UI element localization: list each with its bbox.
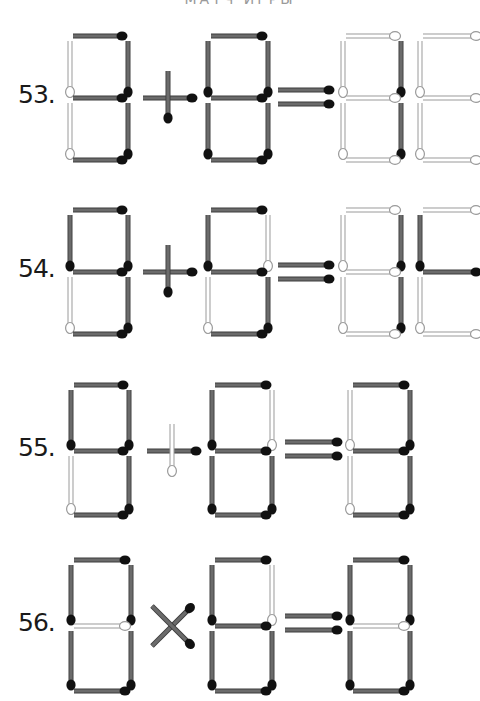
segment-a-top[interactable] xyxy=(73,31,128,40)
segment-c-bottom-right[interactable] xyxy=(123,277,132,334)
segment-a-top[interactable] xyxy=(73,205,128,214)
segment-a-top[interactable] xyxy=(211,31,268,40)
segment-b-top-right[interactable] xyxy=(405,390,414,451)
segment-e-bottom-left[interactable] xyxy=(416,277,425,334)
segment-b-top-right[interactable] xyxy=(263,41,272,98)
segment-c-bottom-right[interactable] xyxy=(263,103,272,160)
segment-d-bottom[interactable] xyxy=(211,155,268,164)
segment-f-top-left[interactable] xyxy=(66,565,75,626)
segment-d-bottom[interactable] xyxy=(215,686,272,695)
segment-e-bottom-left[interactable] xyxy=(416,103,425,160)
segment-c-bottom-right[interactable] xyxy=(396,277,405,334)
segment-g-middle[interactable] xyxy=(423,267,480,276)
segment-f-top-left[interactable] xyxy=(339,41,348,98)
segment-g-middle[interactable] xyxy=(211,267,268,276)
segment-a-top[interactable] xyxy=(211,205,268,214)
segment-b-top-right[interactable] xyxy=(396,215,405,272)
segment-b-top-right[interactable] xyxy=(264,215,273,272)
segment-e-bottom-left[interactable] xyxy=(339,277,348,334)
segment-a-top[interactable] xyxy=(423,206,480,215)
segment-d-bottom[interactable] xyxy=(73,155,128,164)
segment-g-middle[interactable] xyxy=(215,621,272,630)
segment-g-middle[interactable] xyxy=(74,446,129,455)
segment-e-bottom-left[interactable] xyxy=(207,631,216,691)
segment-e-bottom-left[interactable] xyxy=(203,103,212,160)
segment-c-bottom-right[interactable] xyxy=(396,103,405,160)
segment-e-bottom-left[interactable] xyxy=(345,631,354,691)
segment-d-bottom[interactable] xyxy=(353,510,410,519)
segment-d-bottom[interactable] xyxy=(423,156,480,165)
segment-g-middle[interactable] xyxy=(211,93,268,102)
segment-f-top-left[interactable] xyxy=(203,41,212,98)
segment-c-bottom-right[interactable] xyxy=(267,631,276,691)
segment-e-bottom-left[interactable] xyxy=(346,456,355,515)
segment-b-top-right[interactable] xyxy=(396,41,405,98)
segment-a-top[interactable] xyxy=(346,32,401,41)
segment-c-bottom-right[interactable] xyxy=(405,456,414,515)
segment-a-top[interactable] xyxy=(74,555,131,564)
segment-g-middle[interactable] xyxy=(346,94,401,103)
segment-g-middle[interactable] xyxy=(215,446,272,455)
segment-d-bottom[interactable] xyxy=(353,686,410,695)
equals-top-match[interactable] xyxy=(278,85,335,94)
segment-g-middle[interactable] xyxy=(73,267,128,276)
segment-a-top[interactable] xyxy=(215,380,272,389)
segment-a-top[interactable] xyxy=(423,32,480,41)
segment-f-top-left[interactable] xyxy=(66,41,75,98)
segment-e-bottom-left[interactable] xyxy=(66,631,75,691)
segment-b-top-right[interactable] xyxy=(268,565,277,626)
segment-f-top-left[interactable] xyxy=(415,215,424,272)
segment-a-top[interactable] xyxy=(346,206,401,215)
equals-top-match[interactable] xyxy=(285,611,343,620)
segment-a-top[interactable] xyxy=(353,555,410,564)
segment-b-top-right[interactable] xyxy=(405,565,414,626)
segment-f-top-left[interactable] xyxy=(65,215,74,272)
segment-b-top-right[interactable] xyxy=(124,390,133,451)
equals-top-match[interactable] xyxy=(278,260,335,269)
segment-f-top-left[interactable] xyxy=(346,390,355,451)
segment-g-middle[interactable] xyxy=(74,622,131,631)
segment-c-bottom-right[interactable] xyxy=(405,631,414,691)
segment-d-bottom[interactable] xyxy=(346,156,401,165)
segment-b-top-right[interactable] xyxy=(268,390,277,451)
segment-f-top-left[interactable] xyxy=(66,390,75,451)
segment-a-top[interactable] xyxy=(353,380,410,389)
segment-b-top-right[interactable] xyxy=(126,565,135,626)
segment-f-top-left[interactable] xyxy=(207,390,216,451)
equals-bottom-match[interactable] xyxy=(278,274,335,283)
segment-g-middle[interactable] xyxy=(353,622,410,631)
segment-d-bottom[interactable] xyxy=(74,510,129,519)
segment-b-top-right[interactable] xyxy=(123,41,132,98)
segment-c-bottom-right[interactable] xyxy=(124,456,133,515)
segment-e-bottom-left[interactable] xyxy=(66,103,75,160)
segment-d-bottom[interactable] xyxy=(73,329,128,338)
segment-c-bottom-right[interactable] xyxy=(126,631,135,691)
segment-e-bottom-left[interactable] xyxy=(207,456,216,515)
segment-d-bottom[interactable] xyxy=(215,510,272,519)
segment-f-top-left[interactable] xyxy=(207,565,216,626)
segment-c-bottom-right[interactable] xyxy=(267,456,276,515)
segment-c-bottom-right[interactable] xyxy=(263,277,272,334)
segment-f-top-left[interactable] xyxy=(345,565,354,626)
segment-e-bottom-left[interactable] xyxy=(67,456,76,515)
segment-c-bottom-right[interactable] xyxy=(123,103,132,160)
equals-top-match[interactable] xyxy=(285,437,343,446)
segment-e-bottom-left[interactable] xyxy=(66,277,75,334)
segment-d-bottom[interactable] xyxy=(346,330,401,339)
segment-d-bottom[interactable] xyxy=(211,329,268,338)
segment-a-top[interactable] xyxy=(74,380,129,389)
segment-g-middle[interactable] xyxy=(73,93,128,102)
segment-f-top-left[interactable] xyxy=(203,215,212,272)
equals-bottom-match[interactable] xyxy=(285,625,343,634)
segment-f-top-left[interactable] xyxy=(339,215,348,272)
segment-a-top[interactable] xyxy=(215,555,272,564)
segment-f-top-left[interactable] xyxy=(416,41,425,98)
segment-b-top-right[interactable] xyxy=(123,215,132,272)
segment-d-bottom[interactable] xyxy=(74,686,131,695)
equals-bottom-match[interactable] xyxy=(278,99,335,108)
segment-d-bottom[interactable] xyxy=(423,330,480,339)
equals-bottom-match[interactable] xyxy=(285,451,343,460)
segment-g-middle[interactable] xyxy=(346,268,401,277)
segment-g-middle[interactable] xyxy=(353,446,410,455)
segment-e-bottom-left[interactable] xyxy=(339,103,348,160)
